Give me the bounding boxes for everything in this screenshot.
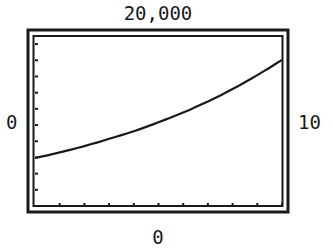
outer-frame	[28, 30, 288, 212]
inner-frame	[34, 36, 283, 206]
data-curve	[35, 60, 282, 158]
plot-area	[0, 0, 333, 250]
y-axis-ticks	[35, 44, 38, 190]
